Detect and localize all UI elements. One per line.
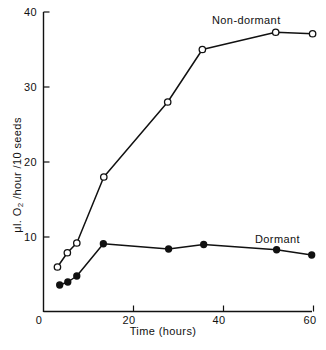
data-point-dormant-7 xyxy=(309,252,315,258)
data-point-dormant-2 xyxy=(74,273,80,279)
data-point-non-dormant-1 xyxy=(64,250,70,256)
oxygen-uptake-line-chart: 40 30 20 10 0 20 40 60 Time (hours) μl. … xyxy=(0,0,326,350)
x-axis-title: Time (hours) xyxy=(0,325,326,337)
y-axis-title-prefix: μl. O xyxy=(11,207,23,232)
data-point-dormant-0 xyxy=(57,282,63,288)
data-point-non-dormant-5 xyxy=(199,46,205,52)
y-axis-title-suffix: /hour /10 seeds xyxy=(11,117,23,202)
y-tick-label-30: 30 xyxy=(11,81,37,93)
data-point-non-dormant-7 xyxy=(309,31,315,37)
data-point-non-dormant-4 xyxy=(165,99,171,105)
data-point-non-dormant-3 xyxy=(101,174,107,180)
series-line-non-dormant xyxy=(57,32,312,267)
data-point-non-dormant-0 xyxy=(54,264,60,270)
y-tick-label-40: 40 xyxy=(11,6,37,18)
data-point-non-dormant-6 xyxy=(273,29,279,35)
data-point-dormant-1 xyxy=(65,279,71,285)
chart-plot-area xyxy=(0,0,326,350)
data-point-dormant-4 xyxy=(166,246,172,252)
series-markers xyxy=(54,29,316,288)
data-point-dormant-3 xyxy=(100,241,106,247)
data-point-non-dormant-2 xyxy=(74,240,80,246)
data-point-dormant-5 xyxy=(201,242,207,248)
series-annotation-non-dormant: Non-dormant xyxy=(212,14,281,26)
x-axis-ticks xyxy=(134,306,314,312)
y-axis-title: μl. O2 /hour /10 seeds xyxy=(11,100,25,250)
y-axis-title-subscript: 2 xyxy=(16,203,25,208)
series-annotation-dormant: Dormant xyxy=(255,233,300,245)
y-axis-ticks xyxy=(44,12,50,237)
data-point-dormant-6 xyxy=(274,247,280,253)
